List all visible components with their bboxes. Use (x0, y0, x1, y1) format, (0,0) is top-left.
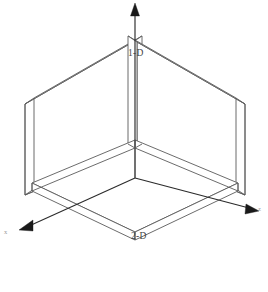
left-axis-arrowhead-icon (19, 220, 33, 231)
diagram-canvas: 1-D 2-D x z y (0, 0, 268, 292)
isometric-3d-diagram (0, 0, 268, 292)
right-axis-arrowhead-icon (245, 204, 259, 214)
label-two-d: 2-D (131, 231, 147, 241)
label-axis-x: x (4, 228, 8, 235)
label-axis-z: z (258, 205, 261, 212)
label-one-d: 1-D (128, 48, 144, 58)
